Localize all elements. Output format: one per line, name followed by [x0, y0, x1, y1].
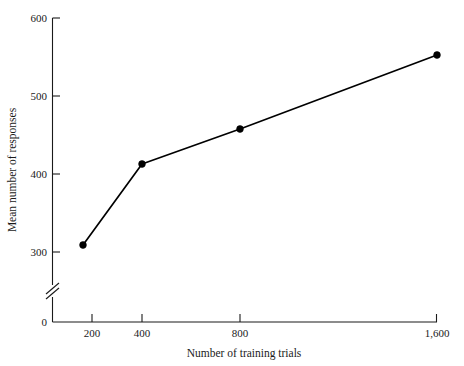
y-tick-label-400: 400 [31, 168, 48, 180]
line-chart: 600 500 400 300 0 200 400 800 1,600 Numb… [0, 0, 464, 366]
x-tick-label-800: 800 [232, 327, 249, 339]
x-tick-label-200: 200 [84, 327, 101, 339]
y-tick-label-500: 500 [31, 90, 48, 102]
chart-figure: 600 500 400 300 0 200 400 800 1,600 Numb… [0, 0, 464, 366]
y-tick-label-300: 300 [31, 246, 48, 258]
x-tick-label-1600: 1,600 [425, 327, 450, 339]
data-point-800 [237, 126, 244, 133]
x-axis-title: Number of training trials [187, 347, 302, 360]
data-point-1600 [434, 52, 441, 59]
data-point-200 [80, 242, 87, 249]
chart-background [0, 0, 464, 366]
y-tick-label-0: 0 [42, 316, 48, 328]
x-tick-label-400: 400 [134, 327, 151, 339]
y-tick-label-600: 600 [31, 12, 48, 24]
data-point-400 [139, 161, 146, 168]
y-axis-title: Mean number of responses [6, 107, 19, 232]
